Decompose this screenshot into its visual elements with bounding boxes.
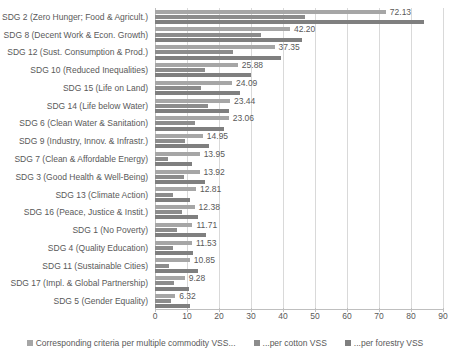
legend-item-series-2[interactable]: ...per cotton VSS bbox=[254, 338, 327, 348]
y-axis-category-labels: SDG 2 (Zero Hunger; Food & Agricult.)SDG… bbox=[0, 8, 152, 310]
x-axis-tick-label: 50 bbox=[310, 312, 319, 321]
bar-series-2 bbox=[155, 246, 173, 250]
legend-label: ...per forestry VSS bbox=[354, 338, 423, 348]
bar-row bbox=[155, 68, 443, 72]
legend-item-series-1[interactable]: Corresponding criteria per multiple comm… bbox=[27, 338, 236, 348]
bar-row: 12.81 bbox=[155, 187, 443, 191]
bar-series-2 bbox=[155, 210, 182, 214]
bar-row bbox=[155, 180, 443, 184]
bar-series-1 bbox=[155, 63, 238, 67]
bar-group: 12.81 bbox=[155, 186, 443, 204]
bar-series-2 bbox=[155, 33, 261, 37]
bar-group: 11.53 bbox=[155, 239, 443, 257]
y-axis-category-label: SDG 5 (Gender Equality) bbox=[54, 297, 148, 306]
bar-row bbox=[155, 127, 443, 131]
bar-series-2 bbox=[155, 299, 171, 303]
bar-row bbox=[155, 210, 443, 214]
bar-series-3 bbox=[155, 162, 192, 166]
y-axis-category-label: SDG 9 (Industry, Innov. & Infrastr.) bbox=[19, 137, 148, 146]
bar-group: 6.32 bbox=[155, 292, 443, 310]
bar-series-1 bbox=[155, 99, 230, 103]
bar-series-3 bbox=[155, 198, 190, 202]
bar-groups: 72.1342.2037.3525.8824.0923.4423.0614.95… bbox=[155, 8, 443, 310]
y-axis-category-label: SDG 1 (No Poverty) bbox=[72, 226, 148, 235]
bar-row bbox=[155, 73, 443, 77]
bar-group: 23.06 bbox=[155, 115, 443, 133]
bar-series-2 bbox=[155, 139, 185, 143]
x-axis-tick-label: 10 bbox=[182, 312, 191, 321]
bar-row: 37.35 bbox=[155, 45, 443, 49]
bar-row bbox=[155, 104, 443, 108]
bar-row: 24.09 bbox=[155, 81, 443, 85]
y-axis-category-label: SDG 14 (Life below Water) bbox=[47, 101, 148, 110]
bar-series-2 bbox=[155, 68, 205, 72]
y-axis-category-label: SDG 3 (Good Health & Well-Being) bbox=[15, 173, 148, 182]
bar-series-2 bbox=[155, 86, 201, 90]
x-axis-tick-label: 70 bbox=[374, 312, 383, 321]
bar-group: 24.09 bbox=[155, 79, 443, 97]
bar-series-2 bbox=[155, 228, 177, 232]
bar-group: 14.95 bbox=[155, 132, 443, 150]
bar-row bbox=[155, 121, 443, 125]
x-axis-tick-label: 40 bbox=[278, 312, 287, 321]
bar-series-1 bbox=[155, 134, 203, 138]
bar-row: 25.88 bbox=[155, 63, 443, 67]
y-axis-category-label: SDG 4 (Quality Education) bbox=[48, 244, 148, 253]
x-axis-tick-label: 0 bbox=[153, 312, 158, 321]
bar-row bbox=[155, 109, 443, 113]
y-axis-category-label: SDG 2 (Zero Hunger; Food & Agricult.) bbox=[2, 13, 148, 22]
bar-series-1 bbox=[155, 116, 229, 120]
bar-row bbox=[155, 281, 443, 285]
bar-series-1 bbox=[155, 187, 196, 191]
bar-series-1 bbox=[155, 241, 192, 245]
bar-series-3 bbox=[155, 180, 205, 184]
bar-row bbox=[155, 91, 443, 95]
bar-row: 72.13 bbox=[155, 10, 443, 14]
y-axis-category-label: SDG 16 (Peace, Justice & Instit.) bbox=[24, 208, 148, 217]
bar-series-3 bbox=[155, 304, 190, 308]
bar-series-2 bbox=[155, 264, 169, 268]
bar-series-2 bbox=[155, 281, 174, 285]
bar-row bbox=[155, 157, 443, 161]
bar-series-1 bbox=[155, 258, 190, 262]
x-axis-tick-label: 60 bbox=[342, 312, 351, 321]
bar-row bbox=[155, 193, 443, 197]
bar-series-1 bbox=[155, 170, 200, 174]
gridline bbox=[443, 8, 444, 310]
plot-area: 72.1342.2037.3525.8824.0923.4423.0614.95… bbox=[155, 8, 443, 310]
bar-chart: SDG 2 (Zero Hunger; Food & Agricult.)SDG… bbox=[0, 0, 450, 362]
bar-series-1 bbox=[155, 27, 290, 31]
bar-series-3 bbox=[155, 144, 209, 148]
bar-row: 10.85 bbox=[155, 258, 443, 262]
bar-series-3 bbox=[155, 20, 424, 24]
bar-group: 37.35 bbox=[155, 44, 443, 62]
legend-item-series-3[interactable]: ...per forestry VSS bbox=[345, 338, 423, 348]
bar-row bbox=[155, 162, 443, 166]
bar-row bbox=[155, 86, 443, 90]
x-axis-tick-label: 20 bbox=[214, 312, 223, 321]
bar-row: 9.28 bbox=[155, 276, 443, 280]
bar-row bbox=[155, 139, 443, 143]
y-axis-category-label: SDG 12 (Sust. Consumption & Prod.) bbox=[7, 48, 148, 57]
bar-series-3 bbox=[155, 251, 193, 255]
y-axis-category-label: SDG 15 (Life on Land) bbox=[63, 84, 148, 93]
bar-row bbox=[155, 228, 443, 232]
bar-row: 12.38 bbox=[155, 205, 443, 209]
bar-series-2 bbox=[155, 15, 305, 19]
bar-row bbox=[155, 33, 443, 37]
bar-group: 12.38 bbox=[155, 203, 443, 221]
bar-row bbox=[155, 175, 443, 179]
bar-group: 11.71 bbox=[155, 221, 443, 239]
y-axis-category-label: SDG 8 (Decent Work & Econ. Growth) bbox=[4, 30, 148, 39]
bar-series-2 bbox=[155, 157, 168, 161]
bar-group: 23.44 bbox=[155, 97, 443, 115]
bar-series-3 bbox=[155, 91, 240, 95]
bar-row: 6.32 bbox=[155, 294, 443, 298]
bar-series-1 bbox=[155, 81, 232, 85]
bar-row: 14.95 bbox=[155, 134, 443, 138]
y-axis-category-label: SDG 6 (Clean Water & Sanitation) bbox=[19, 119, 148, 128]
bar-group: 10.85 bbox=[155, 257, 443, 275]
chart-legend: Corresponding criteria per multiple comm… bbox=[0, 336, 450, 350]
bar-row bbox=[155, 50, 443, 54]
legend-swatch-icon bbox=[27, 340, 33, 346]
